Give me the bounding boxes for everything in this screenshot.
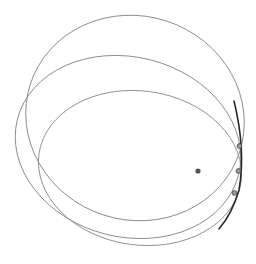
orbit-diagram [0, 0, 256, 264]
orbit-ellipse-1 [0, 0, 256, 249]
tangent-point-marker-1 [237, 144, 242, 149]
tangent-arc [219, 101, 242, 229]
focus-point [195, 168, 200, 173]
orbits-group [0, 0, 256, 262]
tangent-point-marker-3 [232, 191, 237, 196]
orbit-ellipse-3 [28, 78, 251, 259]
tangent-point-marker-2 [236, 169, 241, 174]
